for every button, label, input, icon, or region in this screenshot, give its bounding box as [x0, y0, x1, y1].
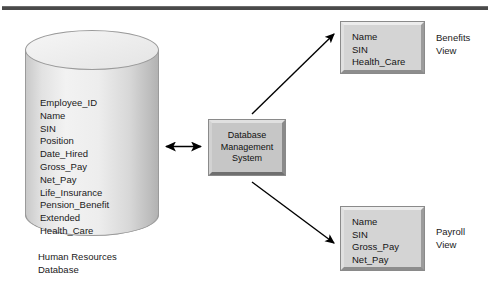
arrow-dbms-to-payroll [252, 182, 334, 243]
dbms-label-line: Database [228, 130, 267, 142]
cylinder-top-ellipse [25, 30, 159, 70]
database-caption-line: Human Resources [38, 250, 117, 263]
payroll-view-box: Name SIN Gross_Pay Net_Pay [340, 206, 425, 271]
benefits-view-field: SIN [352, 44, 405, 57]
dbms-label: Database Management System [212, 123, 282, 172]
database-field: Employee_ID [40, 97, 109, 110]
database-field: Pension_Benefit [40, 199, 109, 212]
database-field: Extended [40, 212, 109, 225]
database-field-list: Employee_ID Name SIN Position Date_Hired… [40, 97, 109, 238]
arrow-dbms-to-benefits [252, 34, 334, 114]
database-field: Gross_Pay [40, 161, 109, 174]
dbms-label-line: System [232, 153, 262, 165]
benefits-view-field: Name [352, 31, 405, 44]
payroll-view-field: SIN [352, 229, 399, 242]
database-field: Net_Pay [40, 174, 109, 187]
dbms-label-line: Management [221, 142, 274, 154]
payroll-view-field: Net_Pay [352, 254, 399, 267]
benefits-view-field: Health_Care [352, 56, 405, 69]
payroll-view-label: Payroll View [436, 225, 465, 251]
database-field: Name [40, 110, 109, 123]
payroll-view-field-list: Name SIN Gross_Pay Net_Pay [352, 216, 399, 266]
database-field: Health_Care [40, 225, 109, 238]
payroll-view-field: Name [352, 216, 399, 229]
database-field: Date_Hired [40, 148, 109, 161]
database-caption-line: Database [38, 263, 117, 276]
benefits-view-label: Benefits View [436, 31, 470, 57]
database-field: Position [40, 135, 109, 148]
payroll-view-face: Name SIN Gross_Pay Net_Pay [344, 210, 421, 267]
payroll-view-label-line: View [436, 238, 465, 251]
benefits-view-label-line: Benefits [436, 31, 470, 44]
top-horizontal-rule [2, 6, 488, 10]
database-field: Life_Insurance [40, 187, 109, 200]
dbms-box: Database Management System [208, 119, 286, 176]
benefits-view-label-line: View [436, 44, 470, 57]
database-caption: Human Resources Database [38, 250, 117, 276]
benefits-view-face: Name SIN Health_Care [344, 25, 421, 70]
diagram-canvas: Employee_ID Name SIN Position Date_Hired… [0, 0, 490, 286]
payroll-view-label-line: Payroll [436, 225, 465, 238]
database-field: SIN [40, 123, 109, 136]
benefits-view-box: Name SIN Health_Care [340, 21, 425, 74]
benefits-view-field-list: Name SIN Health_Care [352, 31, 405, 69]
payroll-view-field: Gross_Pay [352, 241, 399, 254]
